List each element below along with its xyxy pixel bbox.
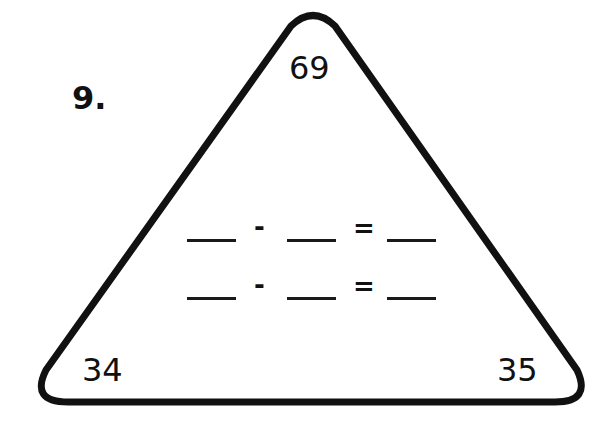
answer-blank[interactable] (187, 239, 236, 242)
answer-blank[interactable] (387, 297, 436, 300)
triangle-top-number: 69 (289, 52, 330, 84)
problem-number: 9. (72, 82, 106, 114)
equals-sign: = (353, 215, 375, 241)
triangle-bottom-right-number: 35 (497, 354, 538, 386)
minus-sign: - (254, 214, 265, 240)
answer-blank[interactable] (287, 239, 336, 242)
minus-sign: - (254, 272, 265, 298)
answer-blank[interactable] (387, 239, 436, 242)
equals-sign: = (353, 273, 375, 299)
answer-blank[interactable] (287, 297, 336, 300)
triangle-bottom-left-number: 34 (82, 354, 123, 386)
answer-blank[interactable] (187, 297, 236, 300)
